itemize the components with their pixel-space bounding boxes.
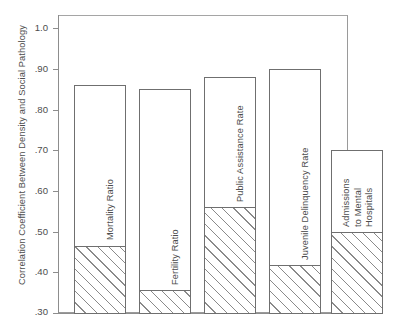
bar-label-juvenile-delinquency-rate: Juvenile Delinquency Rate [300, 147, 310, 260]
y-tick-label-.60: .60 [18, 186, 48, 196]
bar-chart-figure: Correlation Coefficient Between Density … [0, 0, 393, 331]
y-tick-mark-.70 [53, 150, 59, 151]
y-tick-label-.40: .40 [18, 267, 48, 277]
y-axis-line [58, 15, 59, 314]
y-tick-label-1.0: 1.0 [18, 23, 48, 33]
y-tick-mark-.30 [53, 313, 59, 314]
y-tick-mark-.90 [53, 69, 59, 70]
bar-hatch-fertility-ratio [139, 290, 191, 314]
y-tick-label-.50: .50 [18, 227, 48, 237]
bar-label-fertility-ratio: Fertility Ratio [170, 229, 180, 285]
y-tick-label-.80: .80 [18, 105, 48, 115]
bar-hatch-public-assistance-rate [204, 207, 256, 314]
y-tick-mark-.40 [53, 272, 59, 273]
bar-label-mortality-ratio: Mortality Ratio [105, 179, 115, 240]
y-tick-label-.90: .90 [18, 64, 48, 74]
bar-hatch-juvenile-delinquency-rate [269, 265, 321, 314]
bar-label-admissions-to-mental-hospitals: Admissions to Mental Hospitals [341, 179, 376, 227]
bar-fertility-ratio [139, 89, 191, 314]
y-tick-mark-.50 [53, 232, 59, 233]
y-tick-label-.30: .30 [18, 307, 48, 317]
bar-label-public-assistance-rate: Public Assistance Rate [235, 105, 245, 202]
y-tick-mark-.80 [53, 110, 59, 111]
y-tick-mark-.60 [53, 191, 59, 192]
y-tick-label-.70: .70 [18, 145, 48, 155]
y-axis-title: Correlation Coefficient Between Density … [17, 5, 27, 305]
bar-hatch-admissions-to-mental-hospitals [331, 232, 383, 314]
y-tick-mark-1.0 [53, 28, 59, 29]
bar-hatch-mortality-ratio [74, 246, 126, 314]
